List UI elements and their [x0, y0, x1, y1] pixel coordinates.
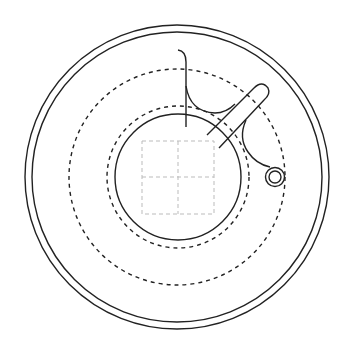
- fillet-arc-lower: [242, 120, 270, 167]
- center-grid: [142, 141, 214, 214]
- diagram-canvas: [0, 0, 345, 343]
- vertical-hook-line: [178, 50, 186, 127]
- diagonal-slot: [207, 84, 269, 148]
- diagram-svg: [0, 0, 345, 343]
- fillet-arc-upper: [186, 86, 235, 113]
- small-ring-inner: [269, 171, 281, 183]
